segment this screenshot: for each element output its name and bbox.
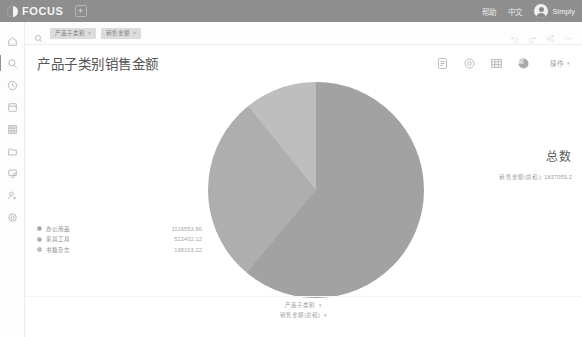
pie-chart-icon[interactable]: [517, 57, 530, 70]
app-root: FOCUS + 帮助 中文 Simply: [0, 0, 582, 337]
close-icon[interactable]: ×: [133, 30, 136, 36]
new-tab-plus-icon[interactable]: +: [75, 5, 87, 17]
content-panel: 产品子类别销售金额 操作 ▾: [25, 45, 582, 337]
legend-item[interactable]: 家具工具 522402.12: [37, 235, 202, 244]
gear-icon: [7, 212, 18, 223]
axis-selector-label: 销售金额(总和): [280, 311, 320, 319]
totals-metric: 销售金额(总和): 1837059.2: [427, 173, 572, 181]
card-header: 产品子类别销售金额 操作 ▾: [25, 45, 582, 81]
legend-item[interactable]: 书籍杂志 198103.22: [37, 245, 202, 254]
action-dropdown-button[interactable]: 操作 ▾: [550, 58, 570, 68]
folder-icon: [7, 146, 18, 157]
table-icon: [7, 124, 18, 135]
search-icon: [7, 58, 18, 69]
close-icon[interactable]: ×: [88, 30, 91, 36]
help-link[interactable]: 帮助: [482, 6, 496, 17]
username-label: Simply: [552, 7, 575, 16]
totals-metric-label: 销售金额(总和):: [499, 174, 542, 180]
sidebar-item-tables[interactable]: [0, 118, 25, 140]
totals-title: 总数: [427, 147, 572, 164]
legend-value: 522402.12: [174, 236, 202, 242]
pie-chart[interactable]: [208, 82, 424, 298]
search-bar-actions: [510, 29, 573, 38]
sidebar: [0, 22, 25, 337]
more-icon[interactable]: [564, 29, 573, 38]
chart-axis-selectors: 产品子类别 ▾ 销售金额(总和) ▾: [25, 301, 582, 319]
table-icon[interactable]: [490, 57, 503, 70]
search-bar[interactable]: 产品子类别 × 销售金额 ×: [25, 22, 582, 45]
clock-icon: [7, 80, 18, 91]
axis-selector-measure[interactable]: 销售金额(总和) ▾: [280, 311, 327, 319]
sidebar-item-add-user[interactable]: [0, 184, 25, 206]
page-title: 产品子类别销售金额: [37, 53, 159, 73]
undo-icon[interactable]: [510, 29, 519, 38]
brand-logo[interactable]: FOCUS: [7, 5, 64, 17]
legend-value: 1116553.86: [172, 226, 202, 232]
user-menu[interactable]: Simply: [534, 4, 575, 18]
totals-metric-value: 1837059.2: [544, 174, 572, 180]
sidebar-item-search[interactable]: [0, 52, 25, 74]
legend-label: 书籍杂志: [46, 246, 70, 254]
sidebar-item-home[interactable]: [0, 30, 25, 52]
axis-selector-label: 产品子类别: [285, 301, 315, 309]
legend-color-swatch: [37, 247, 42, 252]
data-manage-icon: [7, 168, 18, 179]
book-icon: [7, 102, 18, 113]
chevron-down-icon: ▾: [324, 312, 327, 318]
totals-panel: 总数 销售金额(总和): 1837059.2: [427, 147, 572, 181]
pie-chart-container: 办公用品 1116553.86 家具工具 522402.12 书籍杂志 1981…: [25, 81, 582, 337]
sidebar-item-data[interactable]: [0, 162, 25, 184]
sidebar-item-answers[interactable]: [0, 96, 25, 118]
search-token-product-subcategory[interactable]: 产品子类别 ×: [50, 28, 96, 39]
add-user-icon: [7, 190, 18, 201]
legend-label: 家具工具: [46, 235, 70, 243]
search-input-icon: [34, 29, 43, 38]
redo-icon[interactable]: [528, 29, 537, 38]
legend-color-swatch: [37, 226, 42, 231]
sidebar-item-folders[interactable]: [0, 140, 25, 162]
focus-logo-icon: [7, 6, 18, 17]
top-bar-right: 帮助 中文 Simply: [482, 4, 575, 18]
brand-name: FOCUS: [22, 5, 64, 17]
divider: [25, 296, 582, 297]
top-bar: FOCUS + 帮助 中文 Simply: [0, 0, 582, 22]
legend-value: 198103.22: [174, 247, 202, 253]
sidebar-item-settings[interactable]: [0, 206, 25, 228]
chevron-down-icon: ▾: [567, 60, 570, 66]
pie-graphic[interactable]: [208, 82, 424, 298]
search-token-sales-amount[interactable]: 销售金额 ×: [101, 28, 141, 39]
legend-item[interactable]: 办公用品 1116553.86: [37, 224, 202, 233]
gear-icon[interactable]: [463, 57, 476, 70]
chevron-down-icon: ▾: [319, 302, 322, 308]
chart-legend: 办公用品 1116553.86 家具工具 522402.12 书籍杂志 1981…: [37, 224, 202, 256]
card-toolbar: 操作 ▾: [436, 57, 570, 70]
legend-color-swatch: [37, 237, 42, 242]
action-dropdown-label: 操作: [550, 58, 564, 68]
home-icon: [7, 36, 18, 47]
avatar: [534, 4, 548, 18]
axis-selector-dimension[interactable]: 产品子类别 ▾: [285, 301, 322, 309]
chip-label: 产品子类别: [55, 29, 85, 37]
sidebar-item-history[interactable]: [0, 74, 25, 96]
chip-label: 销售金额: [106, 29, 130, 37]
export-icon[interactable]: [436, 57, 449, 70]
language-link[interactable]: 中文: [508, 6, 522, 17]
share-icon[interactable]: [546, 29, 555, 38]
legend-label: 办公用品: [46, 225, 70, 233]
